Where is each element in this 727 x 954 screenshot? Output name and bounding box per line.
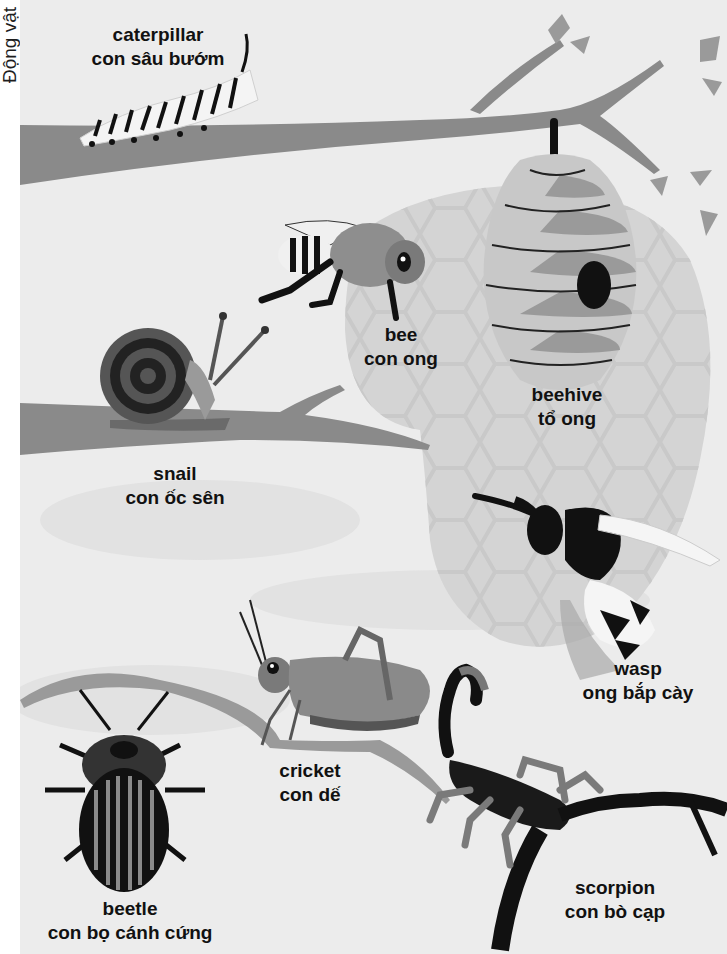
label-wasp: wasp ong bắp cày xyxy=(558,657,718,705)
label-cricket: cricket con dế xyxy=(260,759,360,807)
label-english: bee xyxy=(346,323,456,347)
label-english: scorpion xyxy=(540,876,690,900)
illustration-panel: caterpillar con sâu bướm bee con ong bee… xyxy=(20,0,727,954)
label-vietnamese: con sâu bướm xyxy=(78,47,238,71)
section-title-vertical: Động vật xyxy=(0,7,20,103)
label-english: caterpillar xyxy=(78,23,238,47)
beehive-illustration xyxy=(484,118,637,390)
label-scorpion: scorpion con bò cạp xyxy=(540,876,690,924)
label-vietnamese: con ong xyxy=(346,347,456,371)
page-margin: Động vật xyxy=(0,0,20,954)
label-vietnamese: con bọ cánh cứng xyxy=(30,921,230,945)
label-english: cricket xyxy=(260,759,360,783)
label-english: beetle xyxy=(30,897,230,921)
label-english: beehive xyxy=(512,383,622,407)
label-vietnamese: con dế xyxy=(260,783,360,807)
label-snail: snail con ốc sên xyxy=(100,462,250,510)
label-bee: bee con ong xyxy=(346,323,456,371)
label-beetle: beetle con bọ cánh cứng xyxy=(30,897,230,945)
label-vietnamese: con bò cạp xyxy=(540,900,690,924)
label-english: wasp xyxy=(558,657,718,681)
label-caterpillar: caterpillar con sâu bướm xyxy=(78,23,238,71)
label-vietnamese: con ốc sên xyxy=(100,486,250,510)
label-vietnamese: tổ ong xyxy=(512,407,622,431)
label-vietnamese: ong bắp cày xyxy=(558,681,718,705)
label-beehive: beehive tổ ong xyxy=(512,383,622,431)
label-english: snail xyxy=(100,462,250,486)
